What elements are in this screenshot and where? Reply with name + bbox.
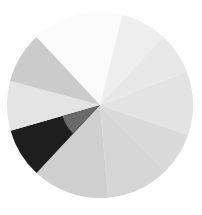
pie-chart-svg	[0, 0, 202, 215]
pie-chart	[0, 0, 202, 215]
